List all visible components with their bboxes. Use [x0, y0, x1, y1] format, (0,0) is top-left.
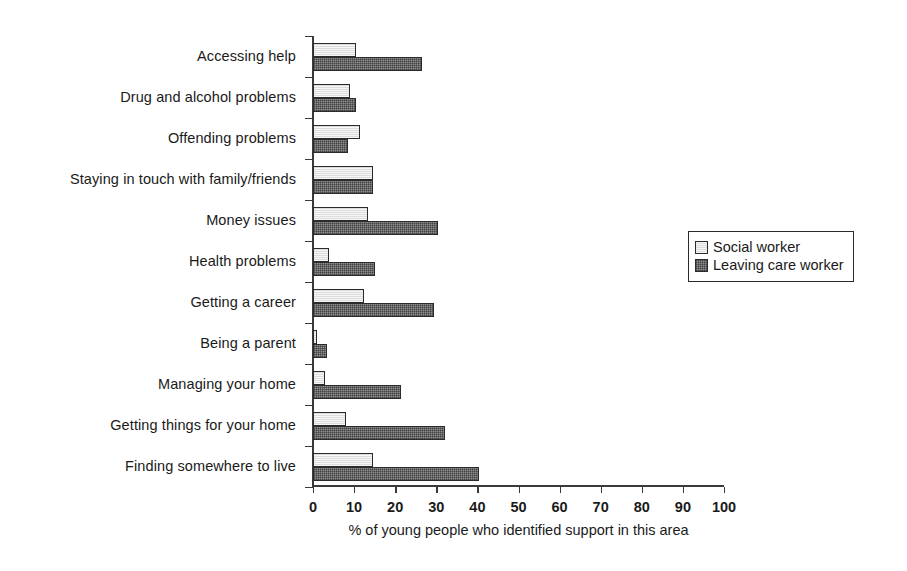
bar-0: [313, 84, 350, 98]
category-row: Getting things for your home: [0, 405, 305, 446]
x-axis-tick-label: 60: [552, 499, 568, 515]
x-axis-tick: [395, 487, 396, 493]
bar-1: [313, 262, 375, 276]
x-axis-tick-label: 30: [428, 499, 444, 515]
y-axis-tick: [305, 487, 313, 488]
x-axis-tick: [477, 487, 478, 493]
bar-group: [313, 118, 724, 159]
bar-1: [313, 426, 445, 440]
x-axis-title: % of young people who identified support…: [313, 522, 724, 538]
bar-group: [313, 241, 724, 282]
y-axis-tick: [305, 36, 313, 37]
category-row: Drug and alcohol problems: [0, 77, 305, 118]
bar-group: [313, 323, 724, 364]
x-axis-tick: [724, 487, 725, 493]
bar-group: [313, 159, 724, 200]
bar-1: [313, 139, 348, 153]
category-row: Staying in touch with family/friends: [0, 159, 305, 200]
bar-1: [313, 303, 434, 317]
x-axis-tick-label: 10: [346, 499, 362, 515]
bar-0: [313, 166, 373, 180]
x-axis-tick: [313, 487, 314, 493]
bar-0: [313, 330, 317, 344]
category-label: Money issues: [206, 213, 296, 229]
bar-0: [313, 125, 360, 139]
x-axis-tick-label: 100: [712, 499, 736, 515]
legend-label: Leaving care worker: [713, 257, 844, 273]
x-axis-tick-label: 0: [309, 499, 317, 515]
y-axis-tick: [305, 446, 313, 447]
category-row: Finding somewhere to live: [0, 446, 305, 487]
category-label: Finding somewhere to live: [125, 459, 296, 475]
bar-1: [313, 180, 373, 194]
bar-group: [313, 282, 724, 323]
category-label: Managing your home: [158, 377, 296, 393]
bar-0: [313, 371, 325, 385]
category-label: Health problems: [189, 254, 296, 270]
x-axis-tick: [560, 487, 561, 493]
bar-0: [313, 412, 346, 426]
y-axis-tick: [305, 159, 313, 160]
category-row: Managing your home: [0, 364, 305, 405]
bar-0: [313, 248, 329, 262]
category-row: Health problems: [0, 241, 305, 282]
x-axis-tick-label: 70: [593, 499, 609, 515]
category-label: Getting a career: [190, 295, 296, 311]
x-axis-tick-label: 50: [510, 499, 526, 515]
y-axis-tick: [305, 405, 313, 406]
y-axis-tick: [305, 364, 313, 365]
y-axis-tick: [305, 241, 313, 242]
bar-group: [313, 446, 724, 487]
category-label: Getting things for your home: [110, 418, 296, 434]
bar-group: [313, 77, 724, 118]
bar-1: [313, 385, 401, 399]
category-label: Being a parent: [200, 336, 296, 352]
x-axis-tick-label: 80: [634, 499, 650, 515]
x-axis-tick: [642, 487, 643, 493]
legend-label: Social worker: [713, 239, 800, 255]
category-row: Offending problems: [0, 118, 305, 159]
category-label: Offending problems: [168, 131, 296, 147]
category-row: Getting a career: [0, 282, 305, 323]
category-axis: Accessing help Drug and alcohol problems…: [0, 36, 305, 487]
bar-chart: Accessing help Drug and alcohol problems…: [0, 0, 907, 571]
x-axis-tick-label: 40: [469, 499, 485, 515]
legend-swatch-light-icon: [695, 241, 708, 254]
category-label: Staying in touch with family/friends: [70, 172, 296, 188]
category-label: Drug and alcohol problems: [120, 90, 296, 106]
bar-1: [313, 467, 479, 481]
bar-1: [313, 344, 327, 358]
bar-1: [313, 221, 438, 235]
bar-group: [313, 405, 724, 446]
x-axis-tick: [354, 487, 355, 493]
bar-group: [313, 36, 724, 77]
category-row: Money issues: [0, 200, 305, 241]
legend-item-social-worker: Social worker: [695, 239, 844, 255]
x-axis-tick: [519, 487, 520, 493]
category-label: Accessing help: [197, 49, 296, 65]
x-axis-tick: [601, 487, 602, 493]
y-axis-tick: [305, 77, 313, 78]
bar-0: [313, 207, 368, 221]
legend: Social worker Leaving care worker: [688, 231, 854, 282]
category-row: Being a parent: [0, 323, 305, 364]
y-axis-tick: [305, 323, 313, 324]
x-axis-tick-label: 20: [387, 499, 403, 515]
x-axis-tick: [683, 487, 684, 493]
category-row: Accessing help: [0, 36, 305, 77]
plot-area: 0102030405060708090100: [313, 36, 724, 487]
bar-1: [313, 57, 422, 71]
y-axis-tick: [305, 200, 313, 201]
legend-item-leaving-care-worker: Leaving care worker: [695, 257, 844, 273]
bar-0: [313, 43, 356, 57]
x-axis-tick-label: 90: [675, 499, 691, 515]
bar-0: [313, 289, 364, 303]
legend-swatch-dark-icon: [695, 259, 708, 272]
bars-layer: [313, 36, 724, 487]
y-axis-tick: [305, 118, 313, 119]
bar-1: [313, 98, 356, 112]
bar-0: [313, 453, 373, 467]
bar-group: [313, 200, 724, 241]
bar-group: [313, 364, 724, 405]
y-axis-tick: [305, 282, 313, 283]
